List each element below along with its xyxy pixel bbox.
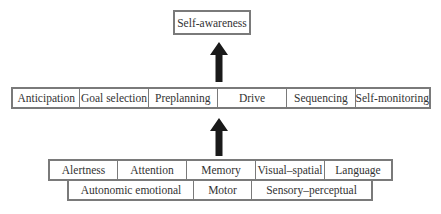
label-drive: Drive [239,92,265,104]
cell-alertness: Alertness [50,161,118,179]
cell-visual-spatial: Visual–spatial [256,161,325,179]
label-goal-selection: Goal selection [81,92,147,104]
cell-motor: Motor [194,181,252,199]
label-memory: Memory [201,164,241,176]
label-sensory-perceptual: Sensory–perceptual [266,184,357,196]
label-preplanning: Preplanning [155,92,211,104]
label-language: Language [335,164,380,176]
cell-anticipation: Anticipation [13,89,80,107]
label-autonomic-emotional: Autonomic emotional [81,184,182,196]
cell-self-monitoring: Self-monitoring [356,89,429,107]
basic-functions-row-2: Autonomic emotional Motor Sensory–percep… [67,179,373,201]
self-awareness-box: Self-awareness [173,10,251,35]
label-motor: Motor [208,184,237,196]
label-visual-spatial: Visual–spatial [257,164,322,176]
self-awareness-label: Self-awareness [177,17,247,29]
arrow-up-icon [209,42,229,82]
cell-memory: Memory [187,161,256,179]
executive-functions-row: Anticipation Goal selection Preplanning … [11,87,431,109]
cell-sequencing: Sequencing [287,89,355,107]
cell-autonomic-emotional: Autonomic emotional [69,181,194,199]
label-alertness: Alertness [62,164,105,176]
cell-goal-selection: Goal selection [80,89,148,107]
cell-language: Language [325,161,391,179]
label-attention: Attention [130,164,173,176]
label-anticipation: Anticipation [17,92,75,104]
cell-sensory-perceptual: Sensory–perceptual [252,181,371,199]
label-sequencing: Sequencing [294,92,348,104]
label-self-monitoring: Self-monitoring [356,92,429,104]
cell-preplanning: Preplanning [149,89,218,107]
cell-drive: Drive [218,89,287,107]
basic-functions-row-1: Alertness Attention Memory Visual–spatia… [48,159,393,181]
cell-attention: Attention [118,161,187,179]
arrow-up-icon [209,118,229,156]
